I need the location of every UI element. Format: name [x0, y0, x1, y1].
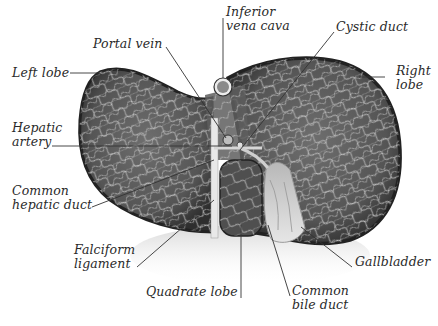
label-hepatic-artery: Hepatic artery: [12, 121, 62, 149]
quadrate-lobe-shape: [220, 160, 262, 236]
inferior-vena-cava-shape: [214, 78, 232, 96]
label-portal-vein: Portal vein: [93, 37, 162, 51]
label-common-hepatic-duct: Common hepatic duct: [12, 184, 92, 212]
label-gallbladder: Gallbladder: [355, 255, 430, 269]
label-inferior-vena-cava: Inferior vena cava: [226, 5, 290, 33]
liver-anatomy-diagram: Left lobe Portal vein Inferior vena cava…: [0, 0, 438, 326]
label-common-bile-duct: Common bile duct: [292, 284, 349, 312]
left-lobe-shape: [80, 69, 214, 232]
liver-illustration: [0, 0, 438, 326]
label-quadrate-lobe: Quadrate lobe: [146, 285, 238, 299]
label-left-lobe: Left lobe: [12, 66, 69, 80]
falciform-ligament-shape: [211, 118, 218, 238]
label-right-lobe: Right lobe: [396, 64, 431, 92]
label-falciform-ligament: Falciform ligament: [74, 243, 135, 271]
label-cystic-duct: Cystic duct: [336, 20, 408, 34]
